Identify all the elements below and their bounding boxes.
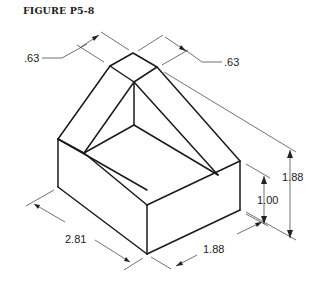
dimension-label-length: 2.81 [65, 233, 86, 245]
object-outline [58, 53, 240, 254]
dimension-label-base-height: 1.00 [257, 194, 278, 206]
dimension-length [26, 190, 143, 270]
dimension-top-right [138, 35, 222, 65]
dimension-label-overall-height: 1.88 [282, 171, 303, 183]
dimension-top-left [42, 32, 129, 62]
dimension-label-top-right: .63 [224, 56, 239, 68]
isometric-drawing: .63 .63 1.88 1.00 2.81 [0, 0, 320, 286]
dimension-label-top-left: .63 [24, 52, 39, 64]
dimension-label-depth: 1.88 [203, 243, 224, 255]
dimension-depth [151, 214, 268, 269]
